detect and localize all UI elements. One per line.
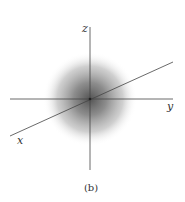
origin-point — [89, 98, 92, 101]
x-axis-label: x — [17, 134, 24, 147]
3d-axes-diagram: z y x (b) — [0, 0, 185, 202]
y-axis-label: y — [166, 100, 174, 113]
z-axis-label: z — [81, 22, 88, 35]
figure-caption: (b) — [84, 182, 98, 193]
